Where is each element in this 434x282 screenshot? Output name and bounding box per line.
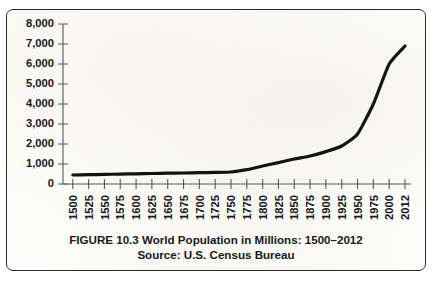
y-tick-label: 4,000	[26, 97, 54, 109]
y-tick-label: 5,000	[26, 77, 54, 89]
figure-caption: FIGURE 10.3 World Population in Millions…	[7, 232, 425, 262]
caption-title-line: FIGURE 10.3 World Population in Millions…	[7, 232, 425, 247]
y-axis-tick-labels: 8,0007,0006,0005,0004,0003,0002,0001,000…	[26, 17, 54, 189]
y-tick-label: 2,000	[26, 137, 54, 149]
x-tick-label: 1575	[114, 195, 126, 220]
x-axis-tick-labels: 1500152515501575160016251650167517001725…	[67, 195, 411, 220]
x-tick-label: 1900	[320, 195, 332, 220]
x-tick-label: 1550	[99, 195, 111, 220]
x-tick-label: 1825	[273, 195, 285, 220]
x-tick-label: 2000	[383, 195, 395, 220]
y-tick-label: 8,000	[26, 17, 54, 29]
x-tick-label: 1925	[336, 195, 348, 220]
caption-source-line: Source: U.S. Census Bureau	[7, 247, 425, 262]
x-tick-label: 1975	[368, 195, 380, 220]
x-tick-label: 2012	[399, 195, 411, 220]
x-tick-label: 1950	[352, 195, 364, 220]
x-tick-label: 1700	[194, 195, 206, 220]
x-tick-label: 1650	[162, 195, 174, 220]
x-tick-label: 1850	[288, 195, 300, 220]
population-curve	[73, 46, 405, 175]
x-tick-label: 1725	[209, 195, 221, 220]
x-tick-label: 1675	[178, 195, 190, 220]
y-tick-label: 6,000	[26, 57, 54, 69]
chart-axes	[63, 24, 411, 184]
y-tick-label: 7,000	[26, 37, 54, 49]
x-tick-label: 1600	[130, 195, 142, 220]
figure-frame: 8,0007,0006,0005,0004,0003,0002,0001,000…	[6, 9, 426, 271]
x-tick-label: 1625	[146, 195, 158, 220]
x-tick-label: 1750	[225, 195, 237, 220]
x-tick-label: 1500	[67, 195, 79, 220]
y-tick-label: 0	[48, 177, 54, 189]
x-tick-label: 1800	[257, 195, 269, 220]
x-tick-label: 1875	[304, 195, 316, 220]
x-tick-label: 1775	[241, 195, 253, 220]
y-tick-label: 1,000	[26, 157, 54, 169]
y-tick-label: 3,000	[26, 117, 54, 129]
x-tick-label: 1525	[83, 195, 95, 220]
